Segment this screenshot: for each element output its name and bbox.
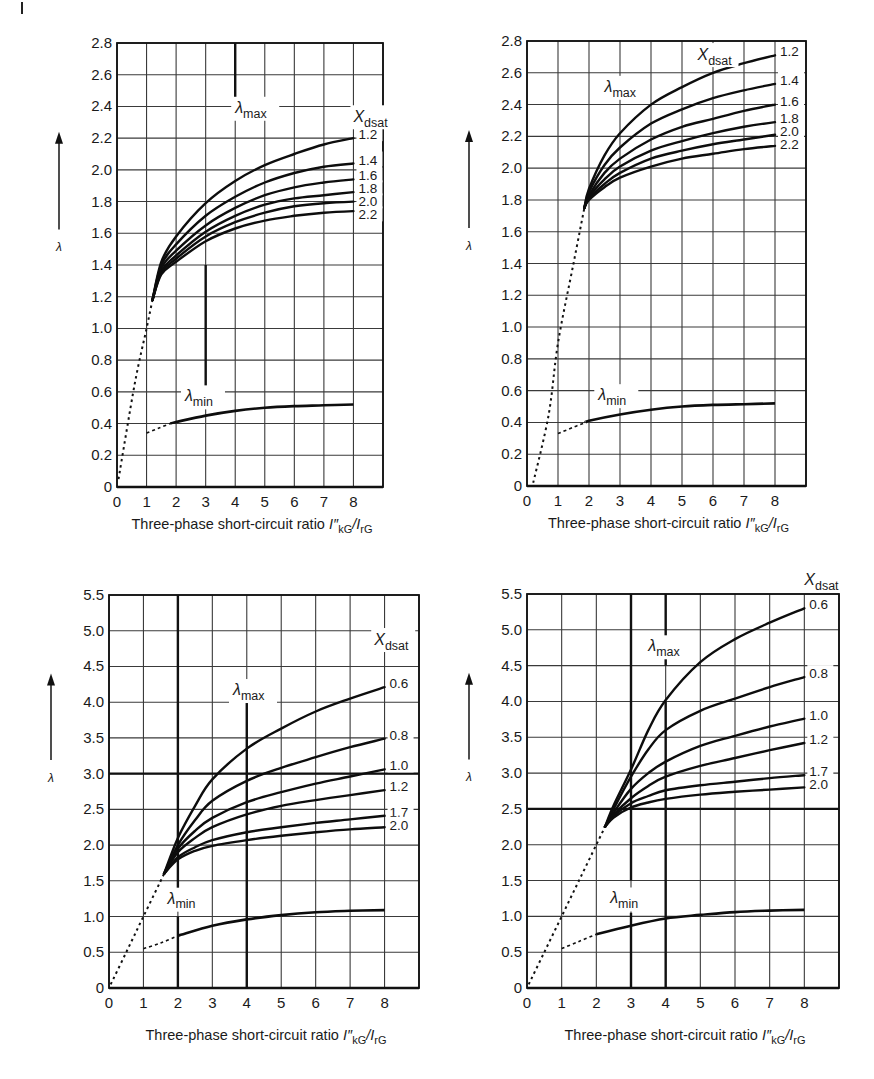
lambda-min-extrapolation bbox=[562, 934, 597, 948]
svg-text:2: 2 bbox=[174, 994, 182, 1011]
svg-text:2.5: 2.5 bbox=[83, 800, 104, 817]
svg-text:3: 3 bbox=[201, 493, 209, 510]
y-axis-arrow-icon bbox=[55, 132, 63, 230]
svg-text:2.4: 2.4 bbox=[501, 96, 522, 113]
curve-xdsat-2.0 bbox=[605, 787, 804, 826]
svg-text:0.4: 0.4 bbox=[501, 413, 522, 430]
curve-xdsat-1.6 bbox=[153, 179, 354, 300]
svg-text:3: 3 bbox=[616, 492, 624, 509]
curve-xdsat-1.6 bbox=[584, 105, 775, 208]
lambda-max-extrapolation bbox=[533, 208, 584, 483]
x-axis-label: Three-phase short-circuit ratio I″kG/IrG bbox=[565, 1027, 806, 1046]
svg-text:3: 3 bbox=[208, 994, 216, 1011]
svg-text:1.4: 1.4 bbox=[501, 255, 522, 272]
curve-xdsat-2.2 bbox=[153, 211, 354, 300]
svg-text:2.0: 2.0 bbox=[91, 161, 112, 178]
svg-text:0: 0 bbox=[514, 979, 522, 996]
x-tick-labels: 012345678 bbox=[113, 493, 358, 510]
lambda-min-extrapolation bbox=[147, 424, 171, 434]
svg-text:1: 1 bbox=[142, 493, 150, 510]
xdsat-value-label: 1.0 bbox=[809, 708, 828, 723]
svg-text:7: 7 bbox=[320, 493, 328, 510]
svg-text:3.0: 3.0 bbox=[501, 764, 522, 781]
xdsat-value-label: 2.2 bbox=[358, 207, 377, 222]
svg-text:8: 8 bbox=[800, 994, 808, 1011]
lambda-max-extrapolation bbox=[119, 300, 153, 479]
svg-text:3.5: 3.5 bbox=[83, 729, 104, 746]
svg-text:8: 8 bbox=[349, 493, 357, 510]
svg-text:6: 6 bbox=[731, 994, 739, 1011]
xdsat-value-label: 1.2 bbox=[390, 779, 409, 794]
svg-text:4.0: 4.0 bbox=[501, 692, 522, 709]
svg-text:8: 8 bbox=[771, 492, 779, 509]
y-tick-labels: 00.51.01.52.02.53.03.54.04.55.05.5 bbox=[501, 585, 522, 996]
curve-xdsat-2.0 bbox=[164, 827, 385, 874]
svg-text:5.0: 5.0 bbox=[501, 621, 522, 638]
x-axis-label: Three-phase short-circuit ratio I″kG/IrG bbox=[132, 516, 373, 535]
svg-text:7: 7 bbox=[740, 492, 748, 509]
svg-text:1.8: 1.8 bbox=[501, 191, 522, 208]
svg-text:1.2: 1.2 bbox=[501, 286, 522, 303]
svg-text:2.2: 2.2 bbox=[91, 129, 112, 146]
lambda-min-extrapolation bbox=[143, 936, 178, 949]
svg-text:1.6: 1.6 bbox=[501, 223, 522, 240]
curve-xdsat-1.4 bbox=[584, 84, 775, 208]
svg-text:4: 4 bbox=[231, 493, 239, 510]
svg-text:2.6: 2.6 bbox=[501, 64, 522, 81]
svg-text:2: 2 bbox=[172, 493, 180, 510]
xdsat-value-label: 2.0 bbox=[809, 777, 828, 792]
svg-text:5: 5 bbox=[696, 994, 704, 1011]
lambda-min-extrapolation bbox=[558, 422, 586, 433]
svg-text:4: 4 bbox=[243, 994, 251, 1011]
svg-text:0: 0 bbox=[523, 994, 531, 1011]
y-axis-arrow-icon bbox=[465, 673, 473, 760]
y-axis-arrow-icon bbox=[465, 130, 473, 228]
svg-text:0.5: 0.5 bbox=[501, 943, 522, 960]
xdsat-value-label: 1.4 bbox=[780, 73, 799, 88]
svg-text:0.6: 0.6 bbox=[501, 382, 522, 399]
svg-text:5: 5 bbox=[261, 493, 269, 510]
xdsat-legend: 1.21.41.61.82.02.2Xdsat bbox=[350, 105, 394, 222]
svg-text:0: 0 bbox=[523, 492, 531, 509]
x-tick-labels: 012345678 bbox=[105, 994, 389, 1011]
chart-bottom-left: 00.51.01.52.02.53.03.54.04.55.05.5012345… bbox=[47, 586, 419, 1046]
svg-text:6: 6 bbox=[311, 994, 319, 1011]
svg-text:2.0: 2.0 bbox=[501, 159, 522, 176]
y-tick-labels: 00.20.40.60.81.01.21.41.61.82.02.22.42.6… bbox=[91, 34, 112, 495]
svg-text:2.0: 2.0 bbox=[83, 836, 104, 853]
svg-text:1.6: 1.6 bbox=[91, 224, 112, 241]
xdsat-value-label: 1.0 bbox=[390, 758, 409, 773]
svg-text:1.5: 1.5 bbox=[501, 872, 522, 889]
svg-text:1.4: 1.4 bbox=[91, 256, 112, 273]
svg-text:0.5: 0.5 bbox=[83, 943, 104, 960]
x-tick-labels: 012345678 bbox=[523, 994, 809, 1011]
svg-text:5.5: 5.5 bbox=[83, 586, 104, 603]
svg-text:0: 0 bbox=[113, 493, 121, 510]
lambda-max-curves bbox=[605, 608, 804, 827]
xdsat-value-label: 1.6 bbox=[780, 94, 799, 109]
svg-text:6: 6 bbox=[709, 492, 717, 509]
x-axis-label: Three-phase short-circuit ratio I″kG/IrG bbox=[548, 515, 789, 534]
svg-text:0.8: 0.8 bbox=[91, 351, 112, 368]
y-tick-labels: 00.51.01.52.02.53.03.54.04.55.05.5 bbox=[83, 586, 104, 996]
svg-text:1.5: 1.5 bbox=[83, 872, 104, 889]
svg-text:4.5: 4.5 bbox=[501, 657, 522, 674]
svg-text:3.5: 3.5 bbox=[501, 728, 522, 745]
curve-xdsat-1.2 bbox=[153, 138, 354, 300]
curve-xdsat-1.0 bbox=[164, 769, 385, 873]
y-axis-label: λ bbox=[47, 771, 54, 785]
svg-text:3.0: 3.0 bbox=[83, 765, 104, 782]
svg-text:4.5: 4.5 bbox=[83, 657, 104, 674]
svg-text:0.8: 0.8 bbox=[501, 350, 522, 367]
svg-text:2.0: 2.0 bbox=[501, 836, 522, 853]
x-axis-label: Three-phase short-circuit ratio I″kG/IrG bbox=[146, 1027, 387, 1046]
svg-text:0.6: 0.6 bbox=[91, 383, 112, 400]
xdsat-value-label: 1.2 bbox=[809, 732, 828, 747]
xdsat-legend: 1.21.41.61.82.02.2Xdsat bbox=[695, 43, 805, 152]
svg-text:0: 0 bbox=[96, 979, 104, 996]
svg-text:1.0: 1.0 bbox=[83, 908, 104, 925]
curve-xdsat-1.7 bbox=[605, 775, 804, 827]
svg-text:0: 0 bbox=[105, 994, 113, 1011]
xdsat-value-label: 0.6 bbox=[809, 597, 828, 612]
svg-text:2.8: 2.8 bbox=[501, 32, 522, 49]
